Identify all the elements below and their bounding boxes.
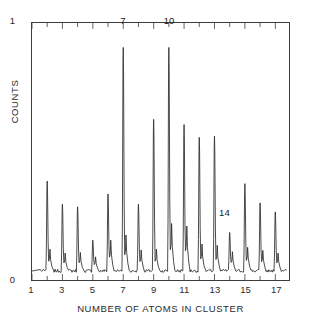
y-tick-label-max: 1: [0, 15, 15, 26]
x-tick-label-17: 17: [266, 284, 286, 295]
top-axis-ticks: [32, 23, 275, 29]
peak-annotation-7: 7: [112, 15, 134, 26]
peak-annotation-14: 14: [213, 207, 235, 218]
y-axis-title: COUNTS: [9, 42, 20, 162]
x-tick-label-15: 15: [236, 284, 256, 295]
x-tick-label-9: 9: [144, 284, 164, 295]
x-tick-label-11: 11: [174, 284, 194, 295]
x-tick-label-1: 1: [21, 284, 41, 295]
peak-annotation-10: 10: [158, 15, 180, 26]
x-axis-title: NUMBER OF ATOMS IN CLUSTER: [31, 303, 290, 314]
y-tick-label-min: 0: [0, 274, 15, 285]
spectrum-plot: [32, 23, 289, 280]
x-tick-label-13: 13: [205, 284, 225, 295]
x-tick-label-5: 5: [82, 284, 102, 295]
bottom-axis-ticks: [32, 274, 275, 280]
plot-area: [31, 22, 290, 281]
figure-container: COUNTS NUMBER OF ATOMS IN CLUSTER 1 0 13…: [0, 0, 309, 326]
spectrum-trace: [32, 47, 286, 272]
x-tick-label-3: 3: [52, 284, 72, 295]
x-tick-label-7: 7: [113, 284, 133, 295]
